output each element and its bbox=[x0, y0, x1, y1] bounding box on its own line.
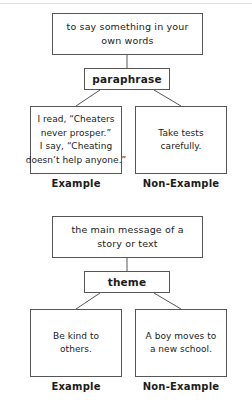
example-line-1: I read, “Cheaters bbox=[37, 114, 114, 124]
example-box: Be kind to others. bbox=[30, 309, 122, 377]
example-caption: Example bbox=[30, 178, 122, 189]
non-example-box: A boy moves to a new school. bbox=[135, 309, 227, 377]
non-example-box: Take tests carefully. bbox=[135, 106, 227, 174]
example-line-1: Be kind to bbox=[53, 331, 99, 341]
non-example-line-2: carefully. bbox=[161, 141, 202, 151]
definition-box: the main message of a story or text bbox=[52, 216, 203, 258]
non-example-text: Take tests carefully. bbox=[155, 127, 206, 154]
non-example-caption: Non-Example bbox=[135, 381, 227, 392]
non-example-line-2: a new school. bbox=[150, 344, 212, 354]
definition-line-1: the main message of a bbox=[71, 224, 183, 235]
frayer-diagram-paraphrase: to say something in your own words parap… bbox=[0, 0, 252, 200]
definition-text: to say something in your own words bbox=[61, 20, 195, 48]
definition-line-2: own words bbox=[101, 35, 153, 46]
term-label: theme bbox=[108, 276, 147, 288]
non-example-text: A boy moves to a new school. bbox=[143, 330, 220, 357]
term-box: theme bbox=[84, 271, 170, 293]
definition-line-2: story or text bbox=[97, 238, 157, 249]
example-line-2: never prosper.” bbox=[41, 128, 111, 138]
definition-text: the main message of a story or text bbox=[65, 223, 189, 251]
example-box: I read, “Cheaters never prosper.” I say,… bbox=[30, 106, 122, 174]
non-example-line-1: A boy moves to bbox=[146, 331, 217, 341]
non-example-caption: Non-Example bbox=[135, 178, 227, 189]
definition-box: to say something in your own words bbox=[52, 13, 203, 55]
example-text: I read, “Cheaters never prosper.” I say,… bbox=[23, 113, 130, 167]
example-line-4: doesn’t help anyone.” bbox=[26, 155, 127, 165]
example-line-2: others. bbox=[60, 344, 92, 354]
frayer-diagram-theme: the main message of a story or text them… bbox=[0, 203, 252, 407]
non-example-line-1: Take tests bbox=[158, 128, 203, 138]
worksheet-page: to say something in your own words parap… bbox=[0, 0, 252, 407]
example-caption: Example bbox=[30, 381, 122, 392]
term-box: paraphrase bbox=[84, 68, 170, 90]
example-line-3: I say, “Cheating bbox=[40, 141, 112, 151]
term-label: paraphrase bbox=[92, 73, 162, 85]
example-text: Be kind to others. bbox=[50, 330, 102, 357]
definition-line-1: to say something in your bbox=[67, 21, 189, 32]
